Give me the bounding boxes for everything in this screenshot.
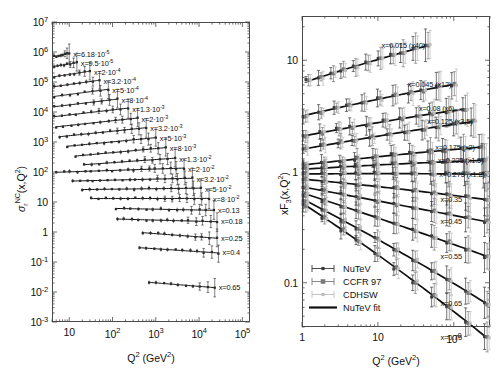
- right-x-axis-title: Q2 (GeV2): [372, 353, 419, 367]
- legend-marker-line-icon: [308, 302, 338, 313]
- legend-label: NuTeV: [343, 264, 371, 274]
- y-tick-label: 106: [33, 45, 48, 59]
- series-label: x=0.45: [441, 217, 463, 226]
- legend-item: CDHSW: [308, 288, 381, 301]
- physics-figure: 1010210310410510-310-210-111010210310410…: [0, 0, 500, 376]
- series-label: x=5·10-2: [205, 184, 231, 194]
- left-y-axis-title: σrNC(x,Q2): [14, 166, 29, 212]
- y-tick-label: 105: [33, 75, 48, 89]
- series-label: x=3.2·10-3: [150, 123, 182, 133]
- series-label: x=0.65: [441, 299, 463, 308]
- y-tick-label: 1: [292, 165, 298, 177]
- series-label: x=0.175 (x2): [435, 143, 475, 152]
- legend-label: NuTeV fit: [343, 303, 380, 313]
- y-tick-label: 10-2: [30, 285, 48, 299]
- x-tick-label: 103: [148, 326, 163, 340]
- x-tick-label: 104: [191, 326, 206, 340]
- y-tick-label: 1: [42, 226, 48, 238]
- series-label: x=2·10-2: [188, 164, 214, 174]
- y-tick-label: 10: [287, 54, 298, 66]
- series-label: x=8·10-2: [213, 194, 239, 204]
- series-label: x=0.225 (x1.5): [438, 156, 483, 165]
- series-label: x=0.18: [221, 217, 243, 226]
- series-label: x=0.015 (x40): [381, 41, 424, 50]
- x-tick-label: 105: [235, 326, 250, 340]
- series-label: x=0.55: [441, 252, 463, 261]
- series-label: x=0.35: [441, 195, 463, 204]
- series-label: x=1.3·10-2: [179, 154, 211, 164]
- x-tick-label: 10: [372, 331, 383, 343]
- series-label: x=0.275 (x1.2): [439, 170, 484, 179]
- series-label: x=8·10-3: [170, 143, 196, 153]
- series-label: x=0.75: [441, 333, 463, 342]
- legend-label: CDHSW: [343, 290, 378, 300]
- series-label: x=0.4: [222, 248, 240, 257]
- y-tick-label: 10-3: [30, 315, 48, 329]
- y-tick-label: 10: [37, 196, 48, 208]
- y-tick-label: 0.1: [284, 276, 298, 288]
- series-label: x=0.65: [219, 283, 241, 292]
- y-tick-label: 103: [33, 135, 48, 149]
- series-label: x=5·10-3: [160, 133, 186, 143]
- x-tick-label: 1: [299, 331, 305, 343]
- series-label: x=0.045 (x12): [408, 80, 451, 89]
- series-label: x=0.13: [218, 206, 240, 215]
- right-y-axis-title: xF3(x,Q2): [277, 172, 292, 215]
- x-tick-label: 102: [105, 326, 120, 340]
- legend-item: CCFR 97: [308, 275, 381, 288]
- series-label: x=1.3·10-3: [132, 104, 164, 114]
- y-tick-label: 102: [33, 165, 48, 179]
- legend-item: NuTeV fit: [308, 301, 381, 314]
- legend: NuTeVCCFR 97CDHSWNuTeV fit: [308, 262, 381, 314]
- y-tick-label: 107: [33, 15, 48, 29]
- legend-item: NuTeV: [308, 262, 381, 275]
- legend-marker-dot-light-icon: [308, 289, 338, 300]
- series-label: x=0.08 (x6): [419, 104, 455, 113]
- series-label: x=0.25: [221, 234, 243, 243]
- y-tick-label: 104: [33, 105, 48, 119]
- legend-marker-dot-small-icon: [308, 263, 338, 274]
- legend-label: CCFR 97: [343, 277, 381, 287]
- x-tick-label: 10: [64, 326, 75, 338]
- series-label: x=3.2·10-2: [196, 174, 228, 184]
- series-label: x=0.125 (x3.5): [427, 117, 472, 126]
- y-tick-label: 10-1: [30, 255, 48, 268]
- left-x-axis-title: Q2 (GeV2): [127, 350, 174, 364]
- legend-marker-square-gray-icon: [308, 276, 338, 287]
